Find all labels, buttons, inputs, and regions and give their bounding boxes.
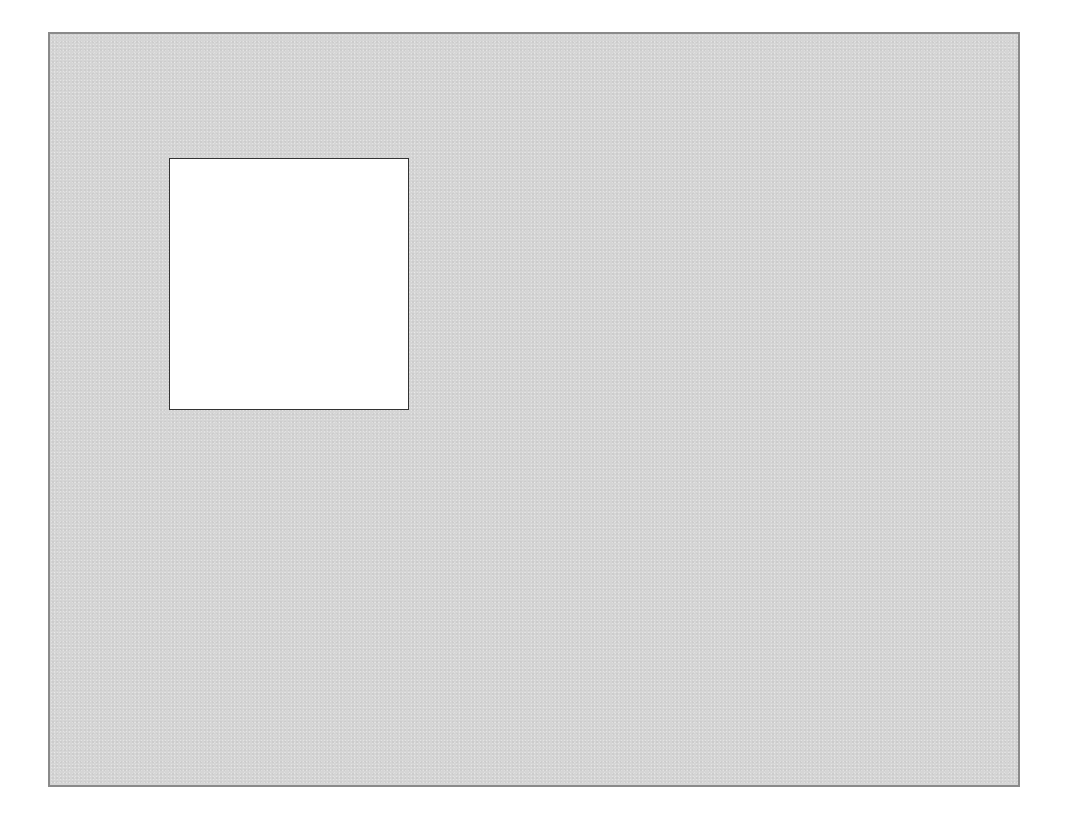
white-panel bbox=[169, 158, 409, 410]
